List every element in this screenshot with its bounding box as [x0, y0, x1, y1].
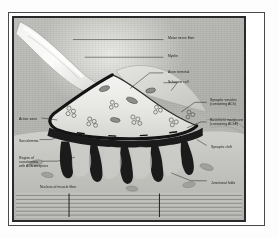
- leader-axon-terminal: [130, 73, 163, 89]
- label-axon-terminal: Axon terminal: [168, 70, 189, 74]
- label-myelin: Myelin: [168, 54, 178, 58]
- label-synaptic-cleft: Synaptic cleft: [211, 145, 232, 149]
- label-synaptic-vesicles: Synaptic vesicles (containing ACh): [210, 98, 237, 106]
- figure-plate: Motor nerve fiber Myelin Axon terminal S…: [12, 16, 246, 222]
- leader-junctional-folds: [171, 173, 206, 181]
- label-active-zone: Active zone: [19, 117, 37, 121]
- leader-basement-membrane: [187, 122, 207, 128]
- leader-active-zone: [42, 118, 58, 120]
- label-sarcolemma: Sarcolemma: [19, 139, 39, 143]
- leader-sarcolemma: [40, 134, 66, 140]
- figure-page: Motor nerve fiber Myelin Axon terminal S…: [0, 0, 278, 238]
- label-schwann-cell: Schwann cell: [168, 80, 189, 84]
- label-motor-nerve-fiber: Motor nerve fiber: [168, 36, 194, 40]
- label-nucleus-muscle-fiber: Nucleus of muscle fiber: [40, 185, 76, 189]
- label-sarcolemma-receptors: Region of sarcolemma with ACh receptors: [19, 156, 48, 168]
- leader-synaptic-vesicles: [181, 102, 207, 112]
- leader-synaptic-cleft: [197, 140, 207, 146]
- label-basement-membrane: Basement membrane (containing AChE): [210, 118, 243, 126]
- label-junctional-folds: Junctional folds: [211, 181, 235, 185]
